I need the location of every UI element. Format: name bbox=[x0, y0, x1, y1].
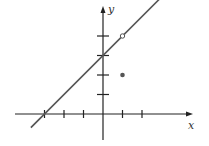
open-circle-point bbox=[120, 34, 124, 38]
ticks bbox=[45, 36, 143, 118]
filled-point bbox=[120, 73, 125, 78]
y-axis-arrow-icon bbox=[101, 6, 106, 13]
axes bbox=[15, 6, 193, 140]
graph-line bbox=[31, 0, 169, 128]
y-axis-label: y bbox=[107, 3, 115, 16]
x-axis-arrow-icon bbox=[186, 112, 193, 117]
function-graph: x y bbox=[0, 0, 209, 146]
points bbox=[120, 34, 125, 77]
x-axis-label: x bbox=[188, 119, 195, 132]
series bbox=[31, 0, 169, 128]
